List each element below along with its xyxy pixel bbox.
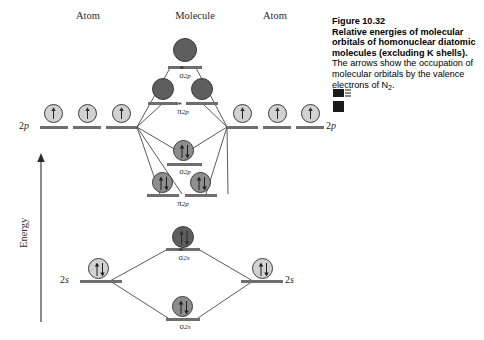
spin-up-arrow-icon — [308, 107, 312, 119]
electron-orbital-left-2p-3 — [112, 104, 131, 123]
level-bar-left-2p-b — [73, 126, 101, 129]
level-bar-left-2p-a — [40, 126, 68, 129]
level-label-right-2p: 2p — [326, 120, 336, 131]
level-bar-right-2p-b — [263, 126, 291, 129]
spin-up-arrow-icon — [51, 107, 55, 119]
electron-orbital-pi-2p-1 — [152, 172, 173, 193]
level-bar-left-2p-c — [106, 126, 137, 129]
level-bar-pi-star-2p-b — [186, 102, 218, 105]
level-bar-pi-star-2p-a — [148, 102, 178, 105]
spin-pair-icon — [197, 176, 207, 190]
electron-orbital-left-2p-1 — [44, 104, 63, 123]
electron-orbital-right-2p-3 — [301, 104, 320, 123]
level-bar-right-2p-a — [227, 126, 258, 129]
level-label-right-2s: 2s — [285, 274, 294, 285]
electron-orbital-right-2s — [252, 258, 273, 279]
level-bar-right-2s — [241, 280, 283, 283]
electron-orbital-left-2s — [88, 258, 109, 279]
spin-up-arrow-icon — [85, 107, 89, 119]
mo-energy-diagram: Atom Molecule Atom Figure 10.32 Relative… — [0, 0, 484, 340]
spin-up-arrow-icon — [240, 107, 244, 119]
level-bar-right-2p-c — [296, 126, 324, 129]
electron-orbital-pi-star-2p-1 — [152, 78, 174, 100]
electron-orbital-right-2p-1 — [233, 104, 252, 123]
electron-orbital-sigma-2p — [173, 140, 194, 161]
electron-orbital-sigma-star-2p — [173, 38, 197, 62]
orbital-label-pi-star-2p: *π2p — [158, 106, 208, 116]
level-bar-sigma-star-2p — [168, 66, 202, 69]
spin-up-arrow-icon — [119, 107, 123, 119]
electron-orbital-left-2p-2 — [78, 104, 97, 123]
electron-orbital-pi-star-2p-2 — [191, 78, 213, 100]
spin-pair-icon — [179, 231, 189, 246]
orbital-label-sigma-star-2s: *σ2s — [159, 252, 209, 262]
orbital-label-sigma-2s: σ2s — [162, 321, 208, 331]
level-bar-pi-2p-b — [185, 194, 217, 197]
spin-pair-icon — [259, 262, 269, 276]
electron-orbital-right-2p-2 — [268, 104, 287, 123]
spin-up-arrow-icon — [275, 107, 279, 119]
spin-pair-icon — [179, 300, 189, 314]
level-bar-pi-2p-a — [147, 194, 179, 197]
electron-orbital-sigma-2s — [172, 296, 193, 317]
electron-orbital-pi-2p-2 — [190, 172, 211, 193]
orbital-label-pi-2p: π2p — [160, 198, 206, 208]
spin-pair-icon — [159, 176, 169, 190]
spin-pair-icon — [180, 144, 190, 158]
level-label-left-2p: 2p — [19, 120, 29, 131]
correlation-lines — [0, 0, 484, 340]
spin-pair-icon — [95, 262, 105, 276]
level-label-left-2s: 2s — [60, 274, 69, 285]
level-bar-left-2s — [80, 280, 122, 283]
